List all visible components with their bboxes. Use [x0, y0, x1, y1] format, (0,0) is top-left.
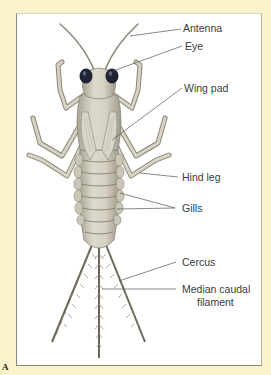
eye-shape-right	[106, 69, 119, 84]
label-antenna: Antenna	[183, 22, 222, 34]
label-cercus: Cercus	[182, 256, 215, 268]
tail-filaments	[52, 245, 145, 358]
antenna-shape	[60, 24, 138, 70]
head-shape	[80, 68, 119, 99]
panel-letter: A	[2, 362, 9, 372]
eye-shape-left	[80, 69, 93, 84]
label-eye: Eye	[185, 40, 203, 52]
label-wing-pad: Wing pad	[184, 82, 228, 94]
label-hind-leg: Hind leg	[182, 171, 221, 183]
label-gills: Gills	[182, 202, 202, 214]
label-median-caudal-filament-2: filament	[197, 296, 234, 308]
label-median-caudal-filament-1: Median caudal	[182, 283, 250, 295]
thorax-shape	[77, 92, 121, 160]
mayfly-nymph-illustration	[0, 0, 271, 375]
abdomen-shape	[74, 150, 124, 248]
